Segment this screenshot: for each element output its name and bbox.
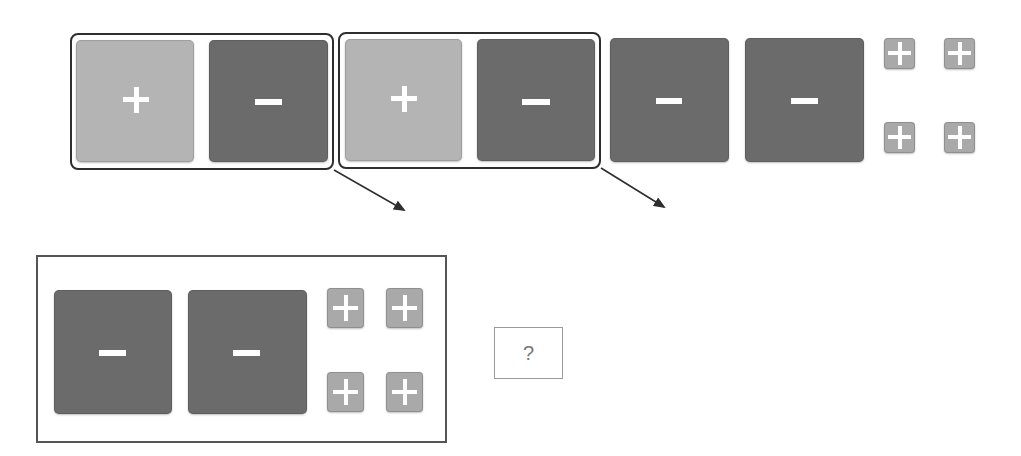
- negative-tile: [188, 290, 307, 414]
- arrow-icon: [334, 170, 404, 210]
- plus-icon-stem: [403, 379, 407, 405]
- minus-icon: [99, 350, 126, 356]
- small-positive-tile: [327, 372, 364, 412]
- plus-icon-stem: [403, 295, 407, 321]
- answer-box[interactable]: ?: [494, 327, 563, 379]
- small-positive-tile: [386, 372, 423, 412]
- plus-icon-stem: [344, 295, 348, 321]
- minus-icon: [233, 350, 260, 356]
- question-mark: ?: [523, 342, 534, 365]
- small-positive-tile: [386, 288, 423, 328]
- arrow-icon: [601, 168, 664, 207]
- negative-tile: [54, 290, 172, 414]
- plus-icon-stem: [344, 379, 348, 405]
- small-positive-tile: [327, 288, 364, 328]
